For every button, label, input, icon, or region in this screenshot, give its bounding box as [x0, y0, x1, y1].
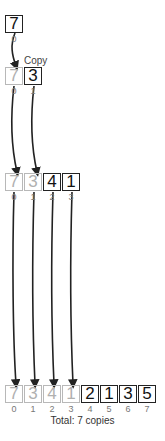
- array-cell: 4: [43, 385, 61, 403]
- cell-index: 3: [62, 404, 80, 414]
- array-cell: 4: [43, 173, 61, 191]
- array-cell: 2: [81, 385, 99, 403]
- cell-index: 0: [5, 86, 23, 96]
- copy-arrow-icon: [12, 86, 17, 172]
- array-cell: 3: [119, 385, 137, 403]
- cell-value: 4: [47, 385, 56, 403]
- cell-index: 4: [81, 404, 99, 414]
- cell-index: 5: [100, 404, 118, 414]
- array-cell: 1: [62, 173, 80, 191]
- cell-index: 2: [43, 192, 61, 202]
- array-cell: 3: [24, 67, 42, 85]
- array-cell: 7: [5, 67, 23, 85]
- array-cell: 7: [5, 173, 23, 191]
- cell-value: 3: [28, 67, 37, 85]
- array-cell: 7: [5, 385, 23, 403]
- array-cell: 5: [138, 385, 156, 403]
- cell-value: 3: [28, 173, 37, 191]
- copy-arrow-icon: [71, 192, 73, 384]
- cell-value: 7: [9, 15, 18, 33]
- cell-value: 2: [85, 385, 94, 403]
- array-cell: 1: [100, 385, 118, 403]
- cell-index: 1: [24, 192, 42, 202]
- cell-index: 1: [24, 86, 42, 96]
- copy-arrow-icon: [32, 86, 37, 172]
- cell-value: 3: [28, 385, 37, 403]
- cell-index: 0: [5, 34, 23, 44]
- cell-index: 7: [138, 404, 156, 414]
- cell-value: 3: [123, 385, 132, 403]
- copy-label: Copy: [24, 55, 47, 66]
- cell-value: 7: [9, 385, 18, 403]
- array-cell: 3: [24, 385, 42, 403]
- total-copies-label: Total: 7 copies: [0, 415, 165, 426]
- cell-value: 7: [9, 173, 18, 191]
- array-cell: 3: [24, 173, 42, 191]
- cell-index: 2: [43, 404, 61, 414]
- cell-index: 6: [119, 404, 137, 414]
- array-growth-diagram: 7 0 Copy 7 3 0 1 7 3 4 1 0 1 2 3 7 3 4 1…: [0, 0, 165, 441]
- cell-index: 0: [5, 192, 23, 202]
- cell-value: 1: [104, 385, 113, 403]
- cell-value: 5: [142, 385, 151, 403]
- cell-index: 1: [24, 404, 42, 414]
- array-cell: 1: [62, 385, 80, 403]
- copy-arrow-icon: [13, 192, 16, 384]
- copy-arrow-icon: [33, 192, 35, 384]
- cell-value: 1: [66, 173, 75, 191]
- cell-value: 4: [47, 173, 56, 191]
- cell-value: 7: [9, 67, 18, 85]
- cell-index: 3: [62, 192, 80, 202]
- cell-index: 0: [5, 404, 23, 414]
- copy-arrow-icon: [52, 192, 54, 384]
- array-cell: 7: [5, 15, 23, 33]
- cell-value: 1: [66, 385, 75, 403]
